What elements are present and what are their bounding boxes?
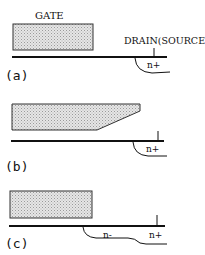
gate-label: GATE bbox=[35, 11, 64, 21]
n-plus-label-c: n+ bbox=[149, 231, 162, 240]
gate-electrode-b bbox=[12, 104, 140, 130]
panel-b-label: (b) bbox=[5, 160, 28, 173]
gate-electrode-a bbox=[13, 24, 93, 50]
n-plus-label-a: n+ bbox=[147, 61, 160, 70]
n-minus-label-c: n- bbox=[103, 231, 112, 240]
n-plus-label-b: n+ bbox=[146, 145, 159, 154]
gate-electrode-c bbox=[10, 191, 92, 218]
panel-b bbox=[11, 104, 167, 156]
panel-c-label: (c) bbox=[5, 237, 28, 250]
drain-source-label: DRAIN(SOURCE) bbox=[124, 36, 205, 46]
panel-a-label: (a) bbox=[5, 69, 28, 82]
panel-c bbox=[9, 191, 167, 244]
